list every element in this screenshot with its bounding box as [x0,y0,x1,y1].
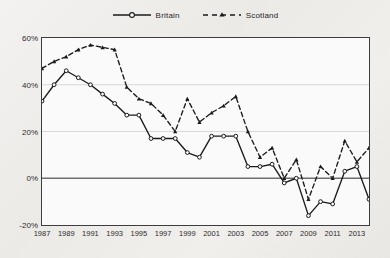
chart-figure: Britain Scotland 60%40%20%0%-20% 1987198… [0,0,390,258]
data-point-britain [258,165,262,169]
data-point-britain [173,137,177,141]
x-tick-label: 2005 [252,229,269,238]
data-point-britain [52,83,56,87]
data-point-scotland [258,155,262,159]
x-tick-label: 1997 [155,229,172,238]
data-point-britain [270,162,274,166]
x-tick-label: 1987 [34,229,51,238]
data-point-britain [64,69,68,73]
data-point-scotland [306,197,310,201]
data-point-britain [198,155,202,159]
legend-swatch-scotland-icon [202,10,242,20]
data-point-britain [294,176,298,180]
series-line-scotland [42,45,369,199]
series-line-britain [42,71,369,216]
x-tick-label: 2001 [203,229,220,238]
data-point-britain [101,92,105,96]
x-tick-label: 1989 [58,229,75,238]
data-point-britain [246,165,250,169]
data-point-britain [137,113,141,117]
x-tick-label: 1995 [131,229,148,238]
x-tick-label: 2011 [325,229,341,238]
data-point-scotland [234,94,238,98]
x-tick-label: 2003 [227,229,244,238]
data-point-scotland [294,157,298,161]
data-point-britain [282,181,286,185]
plot-area [41,37,370,226]
y-tick-label: 0% [4,174,38,183]
x-tick-label: 2007 [276,229,293,238]
legend-item-scotland: Scotland [202,10,279,20]
legend-label-britain: Britain [156,11,180,20]
legend-label-scotland: Scotland [246,11,279,20]
data-point-britain [210,134,214,138]
y-axis-tick-labels: 60%40%20%0%-20% [0,0,38,258]
data-point-britain [343,169,347,173]
y-tick-label: 40% [4,80,38,89]
data-point-britain [149,137,153,141]
data-point-britain [234,134,238,138]
data-point-britain [76,76,80,80]
data-point-scotland [343,139,347,143]
x-tick-label: 1999 [179,229,196,238]
data-point-britain [185,151,189,155]
data-point-scotland [318,164,322,168]
data-point-britain [367,197,369,201]
data-point-britain [355,165,359,169]
data-point-britain [113,102,117,106]
legend-swatch-britain-icon [112,10,152,20]
x-tick-label: 2013 [349,229,366,238]
data-point-scotland [270,146,274,150]
data-point-britain [319,200,323,204]
y-tick-label: 20% [4,127,38,136]
data-point-scotland [185,97,189,101]
data-point-britain [89,83,93,87]
y-tick-label: 60% [4,34,38,43]
data-point-britain [125,113,129,117]
x-tick-label: 1993 [106,229,123,238]
data-point-britain [161,137,165,141]
x-tick-label: 2009 [300,229,317,238]
data-point-scotland [125,85,129,89]
legend-item-britain: Britain [112,10,180,20]
chart-legend: Britain Scotland [0,10,390,20]
x-axis-tick-labels: 1987198919911993199519971999200120032005… [41,229,370,243]
x-tick-label: 1991 [82,229,99,238]
plot-canvas [42,38,369,225]
data-point-scotland [64,55,68,59]
data-point-britain [331,202,335,206]
data-point-britain [42,99,44,103]
data-point-britain [307,214,311,218]
data-point-britain [222,134,226,138]
